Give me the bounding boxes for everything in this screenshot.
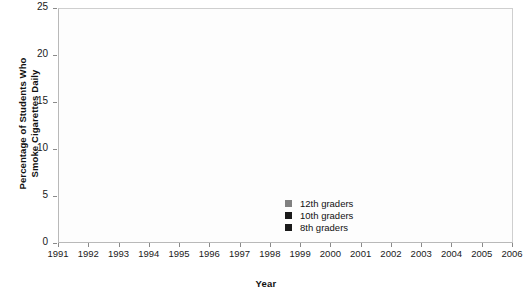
x-tick-mark: [179, 243, 180, 247]
legend-swatch-icon: [285, 224, 292, 231]
y-tick-label: 5: [8, 189, 48, 200]
x-tick-mark: [88, 243, 89, 247]
y-tick-mark: [53, 196, 57, 197]
y-tick-mark: [53, 149, 57, 150]
x-tick-mark: [149, 243, 150, 247]
legend-label: 12th graders: [300, 198, 353, 209]
x-tick-mark: [361, 243, 362, 247]
x-tick-mark: [482, 243, 483, 247]
x-tick-mark: [391, 243, 392, 247]
x-tick-mark: [119, 243, 120, 247]
legend-item: 10th graders: [285, 210, 353, 221]
y-tick-label: 20: [8, 48, 48, 59]
y-tick-label: 25: [8, 1, 48, 12]
y-tick-label: 10: [8, 142, 48, 153]
legend-item: 12th graders: [285, 198, 353, 209]
x-tick-label: 2006: [490, 248, 532, 259]
chart-legend: 12th graders10th graders8th graders: [285, 198, 353, 234]
legend-label: 10th graders: [300, 210, 353, 221]
legend-swatch-icon: [285, 212, 292, 219]
x-axis-title: Year: [0, 278, 532, 289]
y-tick-label: 0: [8, 236, 48, 247]
legend-item: 8th graders: [285, 222, 353, 233]
x-tick-mark: [512, 243, 513, 247]
y-tick-mark: [53, 243, 57, 244]
x-tick-mark: [270, 243, 271, 247]
y-tick-mark: [53, 8, 57, 9]
y-tick-label: 15: [8, 95, 48, 106]
x-tick-mark: [421, 243, 422, 247]
x-tick-mark: [209, 243, 210, 247]
line-chart: Percentage of Students Who Smoke Cigaret…: [0, 0, 532, 295]
x-tick-mark: [58, 243, 59, 247]
x-tick-mark: [451, 243, 452, 247]
legend-label: 8th graders: [300, 222, 348, 233]
x-tick-mark: [300, 243, 301, 247]
x-tick-mark: [330, 243, 331, 247]
legend-swatch-icon: [285, 200, 292, 207]
y-tick-mark: [53, 102, 57, 103]
x-tick-mark: [240, 243, 241, 247]
y-tick-mark: [53, 55, 57, 56]
